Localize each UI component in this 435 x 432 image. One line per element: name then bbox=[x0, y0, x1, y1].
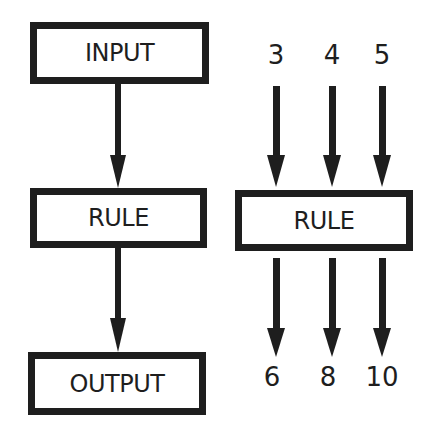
arrow-3-to-rule bbox=[267, 86, 285, 187]
output-value-6: 6 bbox=[242, 362, 302, 392]
arrow-rule-to-output bbox=[110, 248, 126, 352]
right-rule-label: RULE bbox=[294, 207, 355, 235]
input-label: INPUT bbox=[85, 39, 154, 67]
right-rule-box: RULE bbox=[235, 190, 413, 251]
output-label: OUTPUT bbox=[70, 370, 165, 398]
arrow-rule-to-10 bbox=[373, 258, 391, 357]
arrow-input-to-rule bbox=[110, 84, 126, 188]
input-value-5: 5 bbox=[352, 40, 412, 70]
output-box: OUTPUT bbox=[28, 352, 206, 415]
input-box: INPUT bbox=[30, 22, 209, 84]
left-rule-box: RULE bbox=[30, 188, 207, 248]
arrow-5-to-rule bbox=[373, 86, 391, 187]
output-value-10: 10 bbox=[352, 362, 412, 392]
arrow-rule-to-8 bbox=[323, 258, 341, 357]
left-rule-label: RULE bbox=[88, 204, 149, 232]
arrow-4-to-rule bbox=[323, 86, 341, 187]
input-value-3: 3 bbox=[246, 40, 306, 70]
arrow-rule-to-6 bbox=[267, 258, 285, 357]
output-value-8: 8 bbox=[298, 362, 358, 392]
